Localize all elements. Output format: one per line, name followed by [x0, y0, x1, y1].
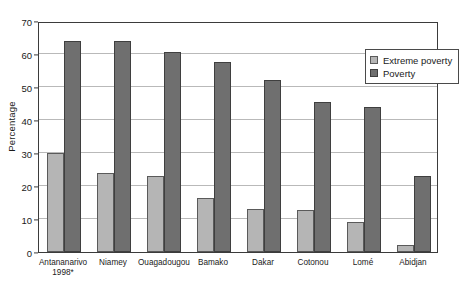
bar-group [297, 23, 331, 252]
x-axis-label: Ouagadougou [138, 258, 188, 268]
legend-item-extreme-poverty: Extreme poverty [370, 54, 452, 66]
plot-area: Extreme poverty Poverty [38, 22, 438, 253]
bar-group [197, 23, 231, 252]
y-tick-label-70: 70 [8, 17, 32, 28]
x-axis-label: Niamey [88, 258, 138, 268]
x-axis-label: Cotonou [288, 258, 338, 268]
y-tick-label-20: 20 [8, 182, 32, 193]
bar [414, 176, 431, 252]
legend-label-extreme-poverty: Extreme poverty [383, 55, 452, 66]
legend-swatch-icon-extreme-poverty [370, 56, 378, 64]
y-tick-label-40: 40 [8, 116, 32, 127]
bar [197, 198, 214, 252]
y-tick-label-50: 50 [8, 83, 32, 94]
x-axis-label: Dakar [238, 258, 288, 268]
legend-label-poverty: Poverty [383, 68, 415, 79]
bar [247, 209, 264, 252]
bar-group [47, 23, 81, 252]
legend-item-poverty: Poverty [370, 67, 452, 79]
bar [97, 173, 114, 252]
bar [214, 62, 231, 252]
x-axis-label: Lomé [338, 258, 388, 268]
x-axis-label: Bamako [188, 258, 238, 268]
y-axis-title-text: Percentage [6, 101, 17, 152]
bar [164, 52, 181, 252]
bar [347, 222, 364, 252]
bar [114, 41, 131, 252]
y-tick-label-10: 10 [8, 215, 32, 226]
bar [264, 80, 281, 252]
y-tick-label-30: 30 [8, 149, 32, 160]
bar [297, 210, 314, 252]
bar [47, 153, 64, 252]
bar-group [97, 23, 131, 252]
y-tick-label-60: 60 [8, 50, 32, 61]
bar [64, 41, 81, 252]
x-axis-label: Antananarivo 1998* [38, 258, 88, 278]
bar [314, 102, 331, 252]
x-axis-label: Abidjan [388, 258, 438, 268]
chart-legend: Extreme poverty Poverty [365, 49, 459, 84]
bar-group [147, 23, 181, 252]
legend-swatch-icon-poverty [370, 69, 378, 77]
bar-group [247, 23, 281, 252]
bar [397, 245, 414, 252]
y-tick-label-0: 0 [8, 248, 32, 259]
bar [364, 107, 381, 252]
bar [147, 176, 164, 252]
